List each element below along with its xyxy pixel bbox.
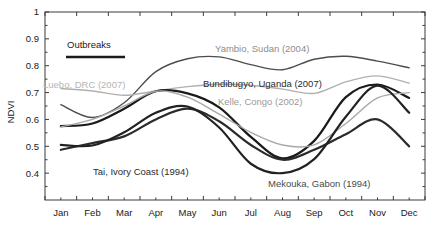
- series-annotation-label: Mekouka, Gabon (1994): [268, 178, 370, 189]
- x-tick-label: Dec: [401, 207, 418, 218]
- y-tick-label: 0.7: [26, 87, 39, 98]
- chart-canvas: 10.90.80.70.60.50.4 JanFebMarAprMayJunJu…: [0, 0, 440, 232]
- y-tick-label: 0.6: [26, 114, 39, 125]
- x-tick-label: Nov: [369, 207, 386, 218]
- data-series-lines: [61, 56, 409, 173]
- series-annotation-label: Kelle, Congo (2002): [218, 96, 303, 107]
- series-annotation-label: Yambio, Sudan (2004): [215, 43, 309, 54]
- series-annotation-label: Tai, Ivory Coast (1994): [93, 166, 189, 177]
- y-tick-label: 0.9: [26, 33, 39, 44]
- y-tick-label: 0.5: [26, 141, 39, 152]
- x-tick-label: May: [179, 207, 197, 218]
- x-tick-label: Jun: [212, 207, 227, 218]
- x-tick-label: Mar: [116, 207, 132, 218]
- series-annotation-label: Luebo, DRC (2007): [43, 79, 125, 90]
- series-annotation-label: Bundibugyo, Uganda (2007): [203, 78, 322, 89]
- y-axis-title: NDVI: [5, 101, 16, 124]
- x-tick-label: Jan: [53, 207, 68, 218]
- outbreaks-legend-label: Outbreaks: [67, 39, 111, 50]
- x-tick-label: Sep: [306, 207, 323, 218]
- ndvi-seasonal-chart-figure: 10.90.80.70.60.50.4 JanFebMarAprMayJunJu…: [0, 0, 440, 232]
- series-line-4: [61, 109, 409, 160]
- y-tick-label: 0.4: [26, 168, 39, 179]
- x-tick-label: Aug: [274, 207, 291, 218]
- y-tick-label: 0.8: [26, 60, 39, 71]
- y-tick-label: 1: [34, 6, 39, 17]
- x-tick-label: Apr: [148, 207, 163, 218]
- x-tick-label: Feb: [84, 207, 100, 218]
- x-tick-label: Jul: [245, 207, 257, 218]
- x-tick-label: Oct: [338, 207, 353, 218]
- outbreaks-legend: Outbreaks: [66, 39, 125, 57]
